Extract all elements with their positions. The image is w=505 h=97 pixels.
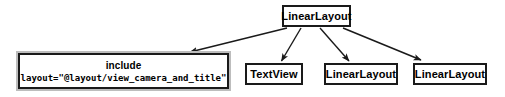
node-include-layout-attribute: layout="@layout/view_camera_and_title" (21, 73, 227, 84)
node-root-label: LinearLayout (281, 10, 351, 23)
diagram-canvas: LinearLayout include layout="@layout/vie… (0, 0, 505, 97)
node-linearlayout-child-1-label: LinearLayout (326, 68, 396, 81)
edge-root-to-linear-2 (320, 28, 349, 61)
node-linearlayout-child-2-label: LinearLayout (415, 68, 485, 81)
edge-root-to-textview (282, 28, 302, 61)
edge-root-to-include (190, 28, 287, 52)
node-include-label: include (106, 59, 142, 72)
node-linearlayout-child-2[interactable]: LinearLayout (413, 63, 487, 85)
node-root-linearlayout[interactable]: LinearLayout (282, 5, 351, 27)
node-linearlayout-child-1[interactable]: LinearLayout (324, 63, 398, 85)
node-textview-label: TextView (250, 68, 297, 81)
node-textview[interactable]: TextView (245, 63, 303, 85)
node-include[interactable]: include layout="@layout/view_camera_and_… (18, 53, 229, 89)
edge-root-to-linear-3 (343, 28, 421, 60)
